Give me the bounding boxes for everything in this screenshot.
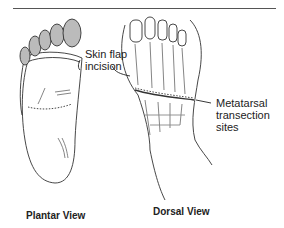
skin-flap-label-line1: Skin flap — [85, 48, 127, 60]
metatarsal-label-line3: sites — [216, 121, 270, 133]
dorsal-foot — [122, 17, 212, 200]
skin-flap-label-line2: incision — [85, 60, 127, 72]
metatarsal-label-line2: transection — [216, 109, 270, 121]
dorsal-view-label: Dorsal View — [153, 206, 210, 217]
plantar-view-label: Plantar View — [26, 210, 85, 221]
metatarsal-label-line1: Metatarsal — [216, 97, 270, 109]
plantar-foot — [20, 19, 82, 183]
skin-flap-label: Skin flap incision — [85, 48, 127, 72]
metatarsal-label: Metatarsal transection sites — [216, 97, 270, 133]
